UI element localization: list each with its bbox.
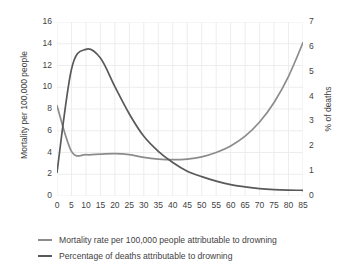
x-tick: 85 xyxy=(293,200,313,210)
series-line xyxy=(57,43,303,160)
y-tick-right: 7 xyxy=(309,16,331,26)
y-tick-right: 1 xyxy=(309,165,331,175)
y-tick-left: 8 xyxy=(30,103,52,113)
y-tick-right: 5 xyxy=(309,66,331,76)
legend-label: Mortality rate per 100,000 people attrib… xyxy=(59,235,277,245)
y-tick-left: 6 xyxy=(30,125,52,135)
legend: Mortality rate per 100,000 people attrib… xyxy=(38,232,338,264)
y-axis-label-left: Mortality per 100,000 people xyxy=(19,25,29,185)
y-tick-right: 6 xyxy=(309,41,331,51)
y-tick-right: 4 xyxy=(309,91,331,101)
y-tick-left: 12 xyxy=(30,60,52,70)
drowning-mortality-chart: Mortality per 100,000 people % of deaths… xyxy=(0,0,357,280)
legend-swatch xyxy=(38,255,52,257)
legend-item[interactable]: Percentage of deaths attributable to dro… xyxy=(38,248,338,264)
y-tick-left: 14 xyxy=(30,38,52,48)
legend-label: Percentage of deaths attributable to dro… xyxy=(59,251,232,261)
y-tick-left: 16 xyxy=(30,16,52,26)
legend-item[interactable]: Mortality rate per 100,000 people attrib… xyxy=(38,232,338,248)
plot-area xyxy=(57,22,303,196)
legend-swatch xyxy=(38,239,52,241)
gridlines xyxy=(57,22,303,196)
y-tick-right: 0 xyxy=(309,190,331,200)
y-tick-left: 4 xyxy=(30,147,52,157)
y-tick-right: 2 xyxy=(309,140,331,150)
y-tick-left: 2 xyxy=(30,168,52,178)
plot-svg xyxy=(57,22,303,196)
series-lines xyxy=(57,43,303,191)
y-tick-left: 10 xyxy=(30,81,52,91)
y-tick-right: 3 xyxy=(309,115,331,125)
y-tick-left: 0 xyxy=(30,190,52,200)
series-line xyxy=(57,49,303,190)
